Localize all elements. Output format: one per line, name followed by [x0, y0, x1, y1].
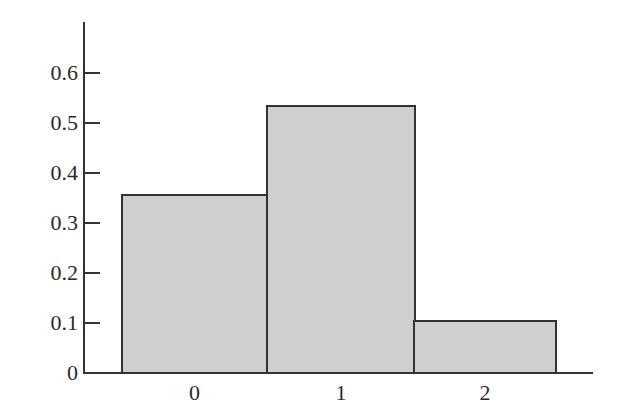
y-tick-label: 0.4 [51, 160, 79, 185]
bar-chart: 00.10.20.30.40.50.6 012 [0, 0, 621, 419]
x-tick-label: 0 [189, 380, 200, 405]
x-tick-label: 2 [480, 380, 491, 405]
y-tick-label: 0 [67, 360, 78, 385]
y-ticks-group: 00.10.20.30.40.50.6 [51, 60, 101, 385]
bar-0 [122, 195, 267, 373]
y-tick-label: 0.2 [51, 260, 79, 285]
x-labels-group: 012 [189, 380, 491, 405]
y-tick-label: 0.3 [51, 210, 79, 235]
bars-group [122, 106, 556, 373]
y-tick-label: 0.1 [51, 310, 79, 335]
bar-2 [414, 321, 556, 373]
bar-1 [267, 106, 415, 373]
y-tick-label: 0.5 [51, 110, 79, 135]
y-tick-label: 0.6 [51, 60, 79, 85]
x-tick-label: 1 [336, 380, 347, 405]
